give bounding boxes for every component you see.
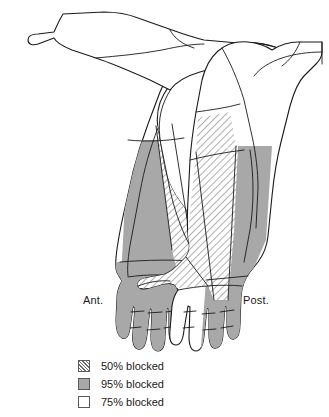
legend-item-95: 95% blocked (78, 375, 278, 393)
anterior-view-label: Ant. (83, 294, 103, 306)
figure-root: Ant. Post. 50% blocked 95% blocked 75% b… (0, 0, 329, 417)
legend-swatch-diagonal-hatch-icon (78, 360, 90, 372)
legend-item-75: 75% blocked (78, 393, 278, 411)
posterior-view-label: Post. (243, 294, 269, 306)
legend-label-50: 50% blocked (101, 360, 164, 372)
anatomy-illustration (0, 0, 329, 417)
legend: 50% blocked 95% blocked 75% blocked (78, 357, 278, 411)
legend-swatch-white-icon (78, 396, 90, 408)
legend-item-50: 50% blocked (78, 357, 278, 375)
legend-swatch-solid-gray-icon (78, 378, 90, 390)
legend-label-95: 95% blocked (101, 378, 164, 390)
right-zone-50-upper-arm (196, 112, 236, 152)
legend-label-75: 75% blocked (101, 396, 164, 408)
